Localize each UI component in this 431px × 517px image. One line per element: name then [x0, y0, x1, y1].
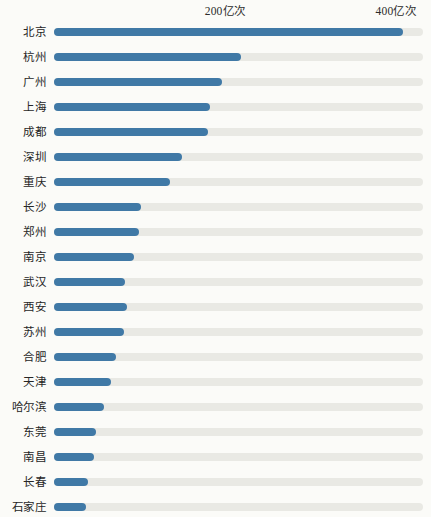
- bar-row-label: 天津: [0, 370, 46, 395]
- chart-axis-header: 200亿次 400亿次: [0, 0, 431, 20]
- bar-row-label: 南京: [0, 245, 46, 270]
- bar-row-label: 武汉: [0, 270, 46, 295]
- axis-tick-label-400: 400亿次: [376, 2, 416, 18]
- bar-row[interactable]: 天津: [0, 370, 431, 395]
- bar-track: [54, 478, 423, 486]
- bar-value: [54, 303, 127, 311]
- bar-row[interactable]: 广州: [0, 70, 431, 95]
- bar-row-label: 东莞: [0, 420, 46, 445]
- bar-row-label: 郑州: [0, 220, 46, 245]
- bar-row-label: 长沙: [0, 195, 46, 220]
- bar-value: [54, 203, 141, 211]
- bar-row-label: 重庆: [0, 170, 46, 195]
- bar-row-label: 成都: [0, 120, 46, 145]
- bar-row-label: 杭州: [0, 45, 46, 70]
- bar-track: [54, 428, 423, 436]
- bar-row[interactable]: 深圳: [0, 145, 431, 170]
- bar-row-label: 哈尔滨: [0, 395, 46, 420]
- bar-value: [54, 503, 86, 511]
- bar-row[interactable]: 重庆: [0, 170, 431, 195]
- bar-value: [54, 328, 124, 336]
- bar-value: [54, 378, 111, 386]
- bar-row[interactable]: 北京: [0, 20, 431, 45]
- bar-row[interactable]: 合肥: [0, 345, 431, 370]
- bar-value: [54, 428, 96, 436]
- bar-row[interactable]: 石家庄: [0, 495, 431, 517]
- bar-row-label: 深圳: [0, 145, 46, 170]
- bar-value: [54, 103, 210, 111]
- bar-value: [54, 478, 88, 486]
- bar-value: [54, 28, 403, 36]
- bar-row[interactable]: 苏州: [0, 320, 431, 345]
- bar-row[interactable]: 东莞: [0, 420, 431, 445]
- bar-row-label: 合肥: [0, 345, 46, 370]
- bar-value: [54, 153, 182, 161]
- bar-row-label: 上海: [0, 95, 46, 120]
- bar-row-label: 北京: [0, 20, 46, 45]
- bar-row[interactable]: 南昌: [0, 445, 431, 470]
- bar-value: [54, 128, 208, 136]
- bar-row[interactable]: 上海: [0, 95, 431, 120]
- bar-value: [54, 78, 222, 86]
- bar-rows: 北京杭州广州上海成都深圳重庆长沙郑州南京武汉西安苏州合肥天津哈尔滨东莞南昌长春石…: [0, 20, 431, 517]
- bar-value: [54, 253, 134, 261]
- axis-tick-label-200: 200亿次: [205, 2, 245, 18]
- bar-value: [54, 228, 139, 236]
- bar-row[interactable]: 长沙: [0, 195, 431, 220]
- bar-row[interactable]: 南京: [0, 245, 431, 270]
- bar-row[interactable]: 哈尔滨: [0, 395, 431, 420]
- bar-row-label: 广州: [0, 70, 46, 95]
- bar-row[interactable]: 长春: [0, 470, 431, 495]
- bar-value: [54, 453, 94, 461]
- bar-row[interactable]: 西安: [0, 295, 431, 320]
- bar-value: [54, 278, 125, 286]
- bar-track: [54, 403, 423, 411]
- bar-track: [54, 453, 423, 461]
- bar-value: [54, 403, 104, 411]
- bar-value: [54, 178, 170, 186]
- bar-row[interactable]: 杭州: [0, 45, 431, 70]
- bar-row[interactable]: 武汉: [0, 270, 431, 295]
- bar-value: [54, 353, 116, 361]
- bar-value: [54, 53, 241, 61]
- bar-row-label: 南昌: [0, 445, 46, 470]
- bar-row[interactable]: 郑州: [0, 220, 431, 245]
- bar-row[interactable]: 成都: [0, 120, 431, 145]
- bar-row-label: 苏州: [0, 320, 46, 345]
- bar-row-label: 石家庄: [0, 495, 46, 517]
- bar-row-label: 西安: [0, 295, 46, 320]
- bar-track: [54, 503, 423, 511]
- bar-row-label: 长春: [0, 470, 46, 495]
